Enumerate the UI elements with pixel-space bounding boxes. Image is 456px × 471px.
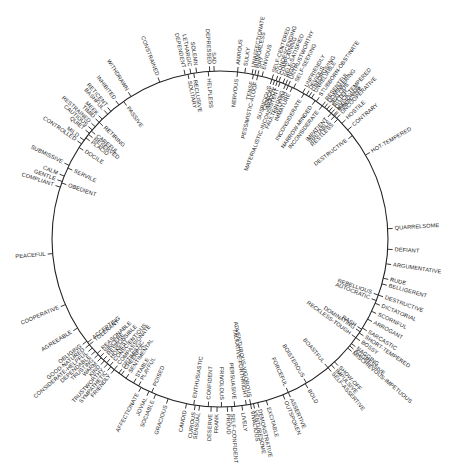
trait-label: QUARRELSOME bbox=[394, 222, 439, 231]
trait-label: BOISTEROUS bbox=[281, 343, 306, 379]
tick-mark bbox=[335, 362, 338, 366]
tick-mark bbox=[89, 134, 93, 137]
tick-mark bbox=[276, 76, 278, 81]
tick-mark bbox=[152, 388, 154, 393]
tick-mark bbox=[356, 338, 360, 341]
tick-mark bbox=[284, 84, 286, 89]
tick-mark bbox=[196, 68, 197, 73]
tick-mark bbox=[253, 404, 254, 409]
tick-mark bbox=[258, 70, 259, 75]
tick-mark bbox=[286, 86, 288, 91]
tick-mark bbox=[257, 75, 258, 80]
tick-mark bbox=[61, 305, 66, 307]
tick-mark bbox=[325, 364, 328, 368]
tick-mark bbox=[348, 127, 352, 130]
tick-mark bbox=[334, 119, 338, 123]
trait-label: ARGUMENTATIVE bbox=[393, 261, 442, 274]
tick-mark bbox=[237, 72, 238, 77]
tick-mark bbox=[68, 168, 73, 170]
tick-mark bbox=[304, 379, 307, 383]
tick-mark bbox=[98, 358, 102, 362]
trait-label: SUBMISSIVE bbox=[30, 144, 64, 165]
tick-mark bbox=[307, 91, 310, 95]
tick-mark bbox=[331, 109, 334, 113]
tick-mark bbox=[95, 355, 99, 358]
tick-mark bbox=[188, 74, 189, 79]
trait-labels: SADDEPRESSEDHELPLESSSOLEMNRECLUSIVELETHA… bbox=[15, 16, 442, 464]
tick-mark bbox=[100, 353, 104, 357]
tick-mark bbox=[356, 329, 360, 332]
tick-mark bbox=[199, 406, 200, 411]
tick-mark bbox=[121, 371, 124, 375]
tick-mark bbox=[88, 348, 92, 351]
tick-mark bbox=[83, 341, 87, 344]
tick-mark bbox=[351, 344, 355, 347]
tick-mark bbox=[348, 348, 352, 351]
tick-mark bbox=[362, 328, 366, 331]
tick-mark bbox=[273, 80, 275, 85]
tick-mark bbox=[62, 183, 67, 185]
tick-mark bbox=[91, 123, 95, 126]
tick-mark bbox=[126, 374, 129, 378]
tick-mark bbox=[77, 141, 81, 144]
tick-mark bbox=[139, 387, 141, 391]
trait-label: ENTHUSIASTIC bbox=[191, 356, 204, 399]
tick-mark bbox=[286, 388, 288, 393]
tick-mark bbox=[128, 92, 131, 96]
tick-mark bbox=[99, 122, 103, 125]
tick-mark bbox=[316, 97, 319, 101]
tick-mark bbox=[252, 74, 253, 79]
tick-mark bbox=[80, 137, 84, 140]
tick-mark bbox=[270, 79, 272, 84]
tick-mark bbox=[116, 101, 119, 105]
tick-mark bbox=[194, 400, 195, 405]
tick-mark bbox=[294, 84, 296, 88]
tick-mark bbox=[184, 70, 185, 75]
tick-mark bbox=[89, 342, 93, 345]
tick-mark bbox=[279, 77, 281, 82]
trait-label: OBEDIENT bbox=[67, 182, 97, 198]
tick-mark bbox=[60, 174, 65, 176]
tick-mark bbox=[312, 101, 315, 105]
tick-mark bbox=[266, 400, 267, 405]
tick-mark bbox=[107, 359, 110, 363]
trait-label: PASSIVE bbox=[126, 105, 145, 128]
tick-mark bbox=[154, 394, 156, 399]
tick-mark bbox=[111, 370, 114, 374]
trait-label: BOLD bbox=[307, 388, 320, 405]
trait-label: HELPLESS bbox=[206, 78, 214, 108]
tick-mark bbox=[101, 361, 104, 365]
tick-mark bbox=[242, 406, 243, 411]
tick-mark bbox=[167, 399, 169, 404]
tick-mark bbox=[309, 92, 312, 96]
tick-mark bbox=[283, 79, 285, 84]
tick-mark bbox=[104, 110, 107, 114]
trait-label: FRIVOLOUS bbox=[219, 367, 225, 400]
tick-mark bbox=[250, 399, 251, 404]
tick-mark bbox=[104, 364, 107, 368]
tick-mark bbox=[311, 94, 314, 98]
trait-label: CANDID bbox=[177, 410, 187, 433]
tick-mark bbox=[124, 101, 127, 105]
trait-label: SERVILE bbox=[73, 168, 98, 184]
tick-mark bbox=[194, 405, 195, 410]
trait-label: HOT-TEMPERED bbox=[370, 126, 413, 154]
tick-mark bbox=[288, 392, 290, 397]
tick-mark bbox=[327, 106, 330, 110]
tick-mark bbox=[331, 365, 334, 369]
tick-mark bbox=[350, 346, 354, 349]
trait-label: DEPRESSED bbox=[205, 29, 213, 65]
tick-mark bbox=[276, 81, 278, 86]
tick-mark bbox=[88, 339, 92, 342]
trait-label: PERSUASIVE bbox=[228, 362, 237, 399]
tick-mark bbox=[133, 379, 136, 383]
tick-mark bbox=[303, 88, 305, 92]
tick-mark bbox=[288, 81, 290, 86]
trait-label: NERVOUS bbox=[230, 78, 239, 107]
trait-label: AGREEABLE bbox=[40, 329, 73, 353]
tick-mark bbox=[108, 367, 111, 371]
trait-label: BOASTFUL bbox=[302, 337, 326, 364]
tick-mark bbox=[96, 119, 100, 122]
trait-label: DEFIANT bbox=[395, 246, 420, 254]
tick-mark bbox=[342, 120, 346, 123]
